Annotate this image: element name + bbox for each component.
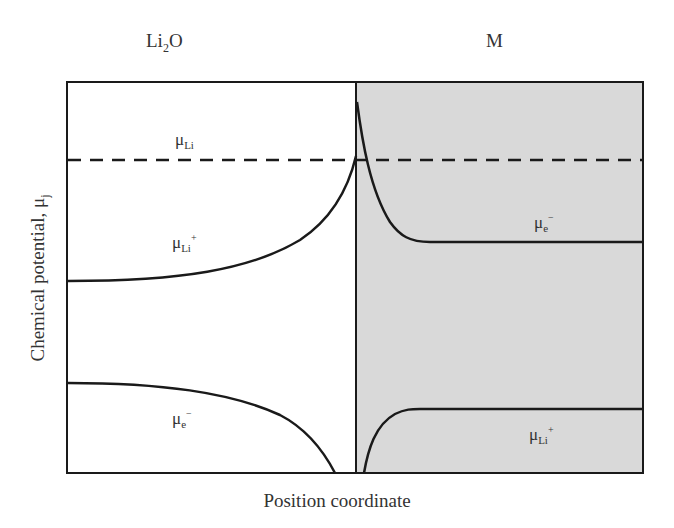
label-mu-li-plus-metal: μLi+: [529, 424, 554, 446]
label-mu-e-minus-metal: μe−: [534, 212, 554, 234]
region-label-li2o: Li2O: [146, 30, 183, 56]
metal-region: [356, 82, 643, 473]
diagram-canvas: [0, 0, 674, 528]
label-mu-li: μLi: [175, 130, 194, 151]
y-axis-label: Chemical potential, μj: [27, 194, 53, 361]
label-mu-e-minus-li2o: μe−: [172, 408, 192, 430]
region-label-m: M: [486, 30, 503, 52]
mu-li-plus-li2o-curve: [68, 156, 356, 281]
mu-e-minus-li2o-curve: [68, 383, 335, 473]
x-axis-label: Position coordinate: [0, 490, 674, 512]
label-mu-li-plus-li2o: μLi+: [172, 232, 197, 254]
